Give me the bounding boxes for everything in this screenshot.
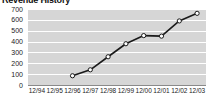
y-axis-tick-label: 200 [11,60,23,67]
data-point-marker [70,74,74,78]
data-point-marker [177,19,181,23]
series-revenue [28,9,206,85]
data-point-marker [88,68,92,72]
y-axis-tick-label: 100 [11,71,23,78]
x-axis-tick-label: 12/96 [64,87,80,95]
x-axis-tick-label: 12/02 [171,87,187,95]
data-point-marker [124,42,128,46]
x-axis-tick-label: 12/03 [189,87,205,95]
x-axis-tick-label: 12/00 [136,87,152,95]
y-axis-tick-label: 500 [11,27,23,34]
revenue-history-chart: Revenue History 0100200300400500600700 1… [0,0,209,101]
data-point-marker [195,11,199,15]
x-axis-tick-label: 12/97 [82,87,98,95]
x-axis-tick-label: 12/98 [100,87,116,95]
y-axis-tick-label: 700 [11,6,23,13]
y-axis-tick-label: 600 [11,16,23,23]
y-axis-labels: 0100200300400500600700 [0,0,26,101]
x-axis-tick-label: 12/94 [29,87,45,95]
x-axis-labels: 12/9412/9512/9612/9712/9812/9912/0012/01… [0,87,209,99]
y-axis-tick-label: 400 [11,38,23,45]
x-axis-baseline [28,85,206,86]
y-axis-tick-label: 300 [11,49,23,56]
data-point-marker [159,34,163,38]
x-axis-tick-label: 12/99 [118,87,134,95]
x-axis-tick-label: 12/95 [47,87,63,95]
data-point-marker [142,34,146,38]
x-axis-tick-label: 12/01 [153,87,169,95]
plot-area [28,9,206,85]
data-point-marker [106,55,110,59]
